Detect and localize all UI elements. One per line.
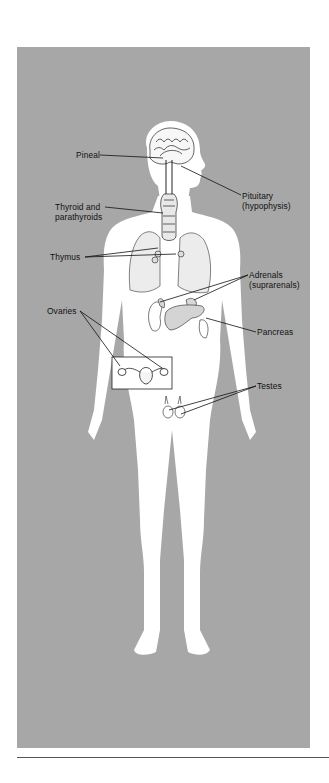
label-adrenals: Adrenals (suprarenals)	[249, 270, 300, 290]
label-ovaries: Ovaries	[47, 306, 77, 316]
label-thyroid: Thyroid and parathyroids	[55, 202, 102, 222]
thyroid-trachea	[161, 194, 178, 241]
label-pineal: Pineal	[76, 150, 100, 160]
label-pituitary: Pituitary (hypophysis)	[242, 191, 291, 211]
ovaries-inset	[112, 357, 172, 389]
label-pituitary-line1: Pituitary	[242, 191, 291, 201]
label-pituitary-line2: (hypophysis)	[242, 201, 291, 211]
label-adrenals-line1: Adrenals	[249, 270, 300, 280]
label-thyroid-line2: parathyroids	[55, 212, 102, 222]
label-testes: Testes	[257, 381, 282, 391]
label-thyroid-line1: Thyroid and	[55, 202, 102, 212]
bottom-rule	[17, 757, 329, 758]
endocrine-diagram	[0, 0, 329, 783]
label-adrenals-line2: (suprarenals)	[249, 280, 300, 290]
label-thymus: Thymus	[50, 252, 80, 262]
label-pancreas: Pancreas	[257, 327, 293, 337]
